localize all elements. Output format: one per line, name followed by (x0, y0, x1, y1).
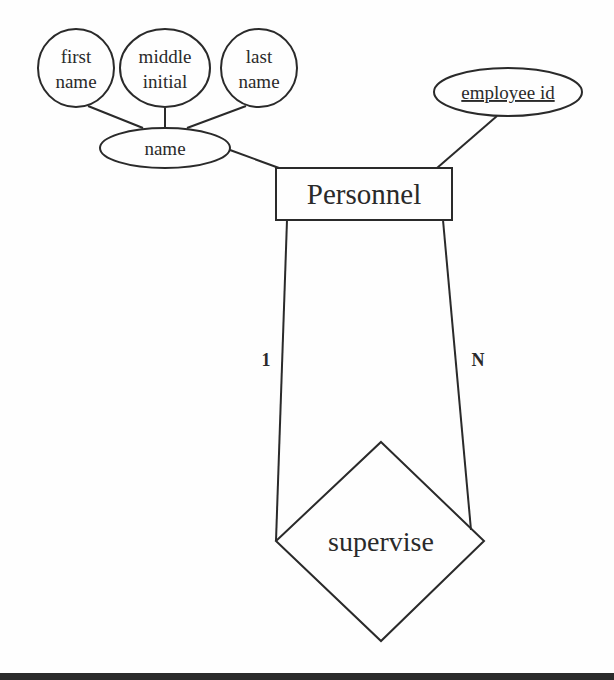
attribute-middle-initial-line2: initial (143, 71, 187, 92)
edge-personnel-to-supervise-1 (276, 220, 287, 541)
relationship-supervise-label: supervise (328, 526, 434, 557)
attribute-name: name (100, 128, 230, 168)
attribute-first-name-line1: first (61, 46, 92, 67)
edge-first-name-to-name (88, 106, 143, 128)
attribute-name-label: name (144, 138, 185, 159)
cardinality-1-label: 1 (262, 350, 271, 370)
attribute-middle-initial-line1: middle (139, 46, 192, 67)
entity-personnel: Personnel (276, 168, 452, 220)
relationship-supervise: supervise (276, 442, 484, 641)
bottom-border-bar (0, 673, 614, 680)
attribute-first-name-line2: name (55, 71, 96, 92)
edge-name-to-personnel (230, 150, 279, 168)
edge-employee-id-to-personnel (437, 116, 497, 168)
attribute-middle-initial: middle initial (120, 29, 210, 107)
cardinality-n-label: N (472, 350, 485, 370)
edge-personnel-to-supervise-n (443, 220, 471, 530)
entity-personnel-label: Personnel (307, 178, 421, 210)
er-diagram-canvas: first name middle initial last name name… (0, 0, 614, 680)
attribute-employee-id-label: employee id (461, 82, 555, 103)
edge-last-name-to-name (187, 106, 246, 128)
attribute-last-name-line2: name (238, 71, 279, 92)
er-diagram: first name middle initial last name name… (0, 0, 614, 680)
attribute-employee-id: employee id (434, 68, 582, 116)
attribute-first-name: first name (38, 29, 114, 107)
attribute-last-name: last name (221, 29, 297, 107)
attribute-last-name-line1: last (246, 46, 273, 67)
